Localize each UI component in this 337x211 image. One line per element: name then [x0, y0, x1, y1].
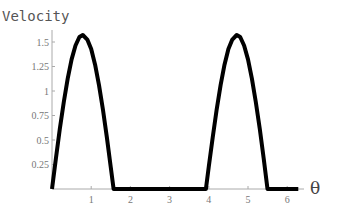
- y-tick-label: 0.25: [32, 159, 50, 170]
- x-tick-label: 2: [128, 194, 133, 205]
- velocity-chart: 123456 0.250.50.7511.251.5 Velocity θ: [0, 0, 337, 211]
- velocity-curve: [52, 35, 298, 189]
- x-tick-label: 4: [206, 194, 211, 205]
- x-tick-label: 3: [167, 194, 172, 205]
- y-tick-label: 0.5: [37, 135, 50, 146]
- x-tick-label: 6: [285, 194, 290, 205]
- y-tick-label: 1.25: [32, 61, 50, 72]
- y-tick-label: 0.75: [32, 110, 50, 121]
- y-tick-label: 1: [44, 86, 49, 97]
- y-axis-title: Velocity: [2, 8, 69, 24]
- y-tick-label: 1.5: [37, 37, 50, 48]
- x-axis-title: θ: [310, 178, 320, 198]
- x-tick-label: 1: [89, 194, 94, 205]
- y-ticks: 0.250.50.7511.251.5: [32, 37, 56, 171]
- x-tick-label: 5: [246, 194, 251, 205]
